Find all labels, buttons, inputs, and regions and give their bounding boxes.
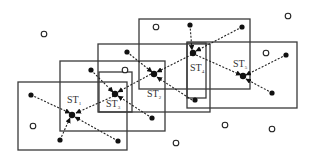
- active-node: [88, 67, 93, 72]
- cluster-diagram: ST1 ST3 ST2 ST4 ST5: [0, 0, 310, 160]
- idle-node: [30, 123, 36, 129]
- link: [246, 55, 286, 75]
- idle-node: [153, 24, 159, 30]
- active-node: [239, 24, 244, 29]
- idle-node: [269, 126, 275, 132]
- active-node: [115, 138, 120, 143]
- link: [190, 25, 192, 50]
- station-label-st1: ST1: [67, 94, 82, 106]
- link: [118, 96, 152, 118]
- link: [60, 118, 70, 140]
- active-node: [28, 92, 33, 97]
- active-node: [283, 52, 288, 57]
- idle-node: [222, 122, 228, 128]
- station-st3-node: [112, 91, 118, 97]
- active-node: [187, 22, 192, 27]
- station-st1-node: [69, 112, 75, 118]
- active-node: [269, 90, 274, 95]
- idle-node: [173, 140, 179, 146]
- station-st2-node: [151, 71, 157, 77]
- link: [91, 70, 113, 92]
- station-label-st2: ST2: [147, 88, 162, 100]
- idle-node: [285, 13, 291, 19]
- station-label-st4: ST4: [190, 62, 205, 74]
- idle-node: [263, 50, 269, 56]
- station-st5-node: [240, 73, 246, 79]
- active-node: [192, 97, 197, 102]
- active-node: [57, 137, 62, 142]
- link: [31, 95, 70, 113]
- station-label-st5: ST5: [233, 58, 248, 70]
- active-node: [124, 49, 129, 54]
- link: [75, 117, 118, 141]
- station-label-st3: ST3: [106, 98, 121, 110]
- link: [196, 27, 242, 51]
- active-node: [149, 115, 154, 120]
- idle-node: [41, 31, 47, 37]
- idle-node: [122, 67, 128, 73]
- station-st4-node: [190, 50, 196, 56]
